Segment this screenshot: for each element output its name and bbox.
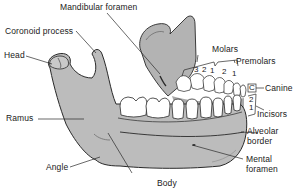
- label-angle: Angle: [46, 163, 68, 172]
- label-canine: Canine: [265, 84, 293, 93]
- label-molars: Molars: [212, 45, 238, 54]
- label-body: Body: [157, 179, 177, 188]
- label-premolars: Premolars: [236, 57, 276, 66]
- label-incisors: Incisors: [257, 110, 287, 119]
- label-head: Head: [4, 51, 25, 60]
- label-mental-foramen-line2: foramen: [246, 165, 278, 174]
- label-alveolar-border-line2: border: [247, 137, 272, 146]
- tooth-number-molar-1: 1: [210, 67, 214, 75]
- tooth-number-incisor-1: 1: [249, 104, 253, 112]
- tooth-number-canine: C: [249, 84, 255, 92]
- tooth-number-molar-3: 3: [194, 66, 198, 74]
- label-mental-foramen-line1: Mental: [246, 155, 272, 164]
- label-mandibular-foramen: Mandibular foramen: [60, 3, 137, 12]
- tooth-number-premolar-1: 1: [232, 70, 236, 78]
- mandible-diagram: 3 2 1 2 1 C 2 1 Mandibular foramen Coron…: [0, 0, 294, 193]
- label-coronoid-process: Coronoid process: [5, 27, 73, 36]
- tooth-number-molar-2: 2: [202, 66, 206, 74]
- label-alveolar-border-line1: Alveolar: [247, 127, 279, 136]
- tooth-number-premolar-2: 2: [222, 68, 226, 76]
- label-ramus: Ramus: [6, 114, 33, 123]
